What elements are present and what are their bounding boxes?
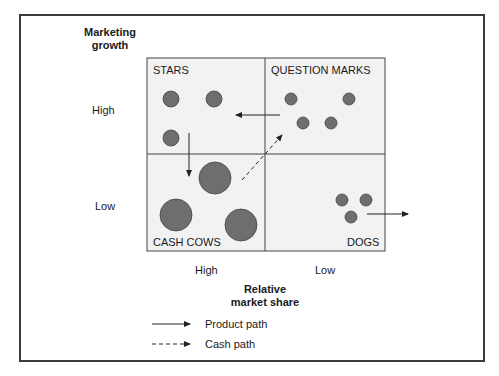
x-axis-title: Relative market share	[225, 283, 305, 309]
legend-product-path-label: Product path	[205, 318, 267, 330]
x-axis-title-line2: market share	[225, 296, 305, 309]
quadrant-label-dogs: DOGS	[347, 236, 379, 248]
quadrant-label-cash-cows: CASH COWS	[153, 236, 221, 248]
x-axis-title-line1: Relative	[225, 283, 305, 296]
quadrant-label-stars: STARS	[153, 64, 189, 76]
x-axis-low-label: Low	[315, 264, 335, 276]
legend-cash-path-label: Cash path	[205, 338, 255, 350]
quadrant-label-question-marks: QUESTION MARKS	[271, 64, 371, 76]
x-axis-high-label: High	[195, 264, 218, 276]
